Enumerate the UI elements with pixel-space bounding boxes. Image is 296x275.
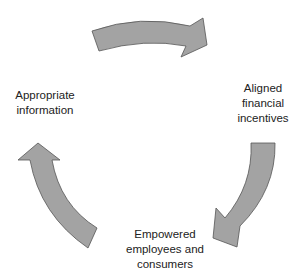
- node-aligned-financial-incentives: Aligned financial incentives: [230, 81, 296, 126]
- node-empowered-employees-consumers: Empowered employees and consumers: [112, 227, 218, 272]
- arrow-left-to-right-icon: [92, 18, 207, 57]
- cycle-diagram: Appropriate information Aligned financia…: [0, 0, 296, 275]
- node-appropriate-information: Appropriate information: [12, 88, 78, 118]
- arrow-bottom-to-left-icon: [18, 143, 97, 248]
- arrow-right-to-bottom-icon: [213, 143, 275, 247]
